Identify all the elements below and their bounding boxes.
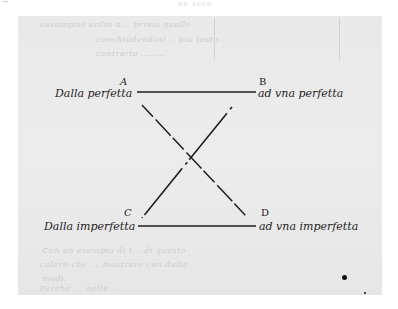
line-b-c bbox=[142, 107, 232, 218]
point-label-c: C bbox=[124, 207, 132, 218]
label-ad-vna-perfetta: ad vna perfetta bbox=[258, 87, 343, 100]
label-ad-vna-imperfetta: ad vna imperfetta bbox=[259, 220, 358, 233]
label-dalla-perfetta: Dalla perfetta bbox=[55, 87, 132, 100]
point-label-a: A bbox=[120, 76, 127, 87]
ink-spot bbox=[364, 292, 366, 294]
ink-spot bbox=[342, 275, 347, 280]
label-dalla-imperfetta: Dalla imperfetta bbox=[44, 220, 135, 233]
point-label-d: D bbox=[261, 207, 269, 218]
point-label-b: B bbox=[259, 76, 266, 87]
square-of-opposition-lines bbox=[0, 0, 398, 309]
